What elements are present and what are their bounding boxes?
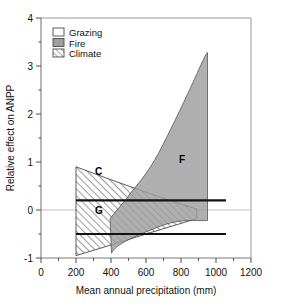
svg-text:200: 200 xyxy=(68,267,85,278)
region-label-fire: F xyxy=(179,154,185,165)
region-label-climate: C xyxy=(95,166,102,177)
svg-text:0: 0 xyxy=(27,205,33,216)
region-label-grazing: G xyxy=(95,205,103,216)
svg-text:-1: -1 xyxy=(24,253,33,264)
svg-text:1200: 1200 xyxy=(240,267,263,278)
legend-label-climate: Climate xyxy=(69,48,101,59)
legend-swatch-climate xyxy=(53,49,64,57)
legend-label-grazing: Grazing xyxy=(69,27,102,38)
svg-text:3: 3 xyxy=(27,61,33,72)
y-axis-title: Relative effect on ANPP xyxy=(5,84,16,191)
chart-figure: C G F 4 3 2 1 0 -1 xyxy=(0,0,293,306)
legend-label-fire: Fire xyxy=(69,38,85,49)
legend-swatch-fire xyxy=(53,39,64,47)
chart-svg: C G F 4 3 2 1 0 -1 xyxy=(0,0,293,306)
svg-text:2: 2 xyxy=(27,109,33,120)
svg-text:1: 1 xyxy=(27,157,33,168)
x-axis-title: Mean annual precipitation (mm) xyxy=(76,285,217,296)
svg-text:0: 0 xyxy=(38,267,44,278)
legend-swatch-grazing xyxy=(53,28,64,36)
svg-text:800: 800 xyxy=(173,267,190,278)
svg-text:1000: 1000 xyxy=(205,267,228,278)
svg-text:600: 600 xyxy=(138,267,155,278)
svg-text:4: 4 xyxy=(27,13,33,24)
svg-text:400: 400 xyxy=(103,267,120,278)
